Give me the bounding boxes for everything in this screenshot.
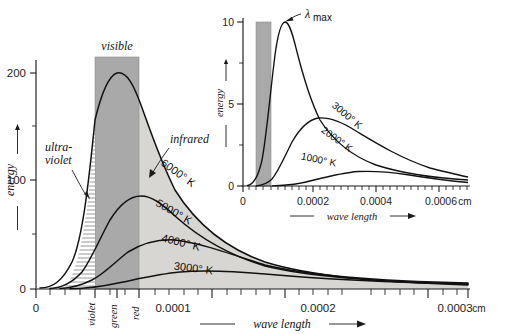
- main-y-tick-200: 200: [7, 67, 26, 79]
- main-x-tick-0: 0: [33, 302, 39, 314]
- spectrum-tick-red: red: [130, 306, 141, 320]
- visible-band: [95, 57, 139, 289]
- inset-y-tick-0: 0: [228, 180, 234, 192]
- inset-y-tick-5: 5: [228, 98, 234, 110]
- inset-x-unit: cm: [458, 196, 471, 207]
- inset-chart: 0 5 10 energy: [214, 7, 490, 222]
- blackbody-radiation-figure: 0 100 200 energy: [0, 0, 505, 334]
- inset-y-axis-label: energy: [214, 89, 225, 118]
- inset-x-tick-2: 0.0004: [360, 195, 392, 207]
- main-x-tick-1: 0.0001: [155, 302, 190, 314]
- main-y-tick-0: 0: [20, 283, 26, 295]
- inset-x-axis-label: wave length: [327, 211, 377, 222]
- infrared-label: infrared: [170, 132, 210, 146]
- ultraviolet-label-line2: violet: [45, 153, 72, 167]
- main-y-axis-label: energy: [3, 163, 17, 196]
- main-x-unit: cm: [472, 303, 485, 314]
- inset-background: [238, 8, 490, 190]
- main-x-axis-label: wave length: [253, 317, 311, 331]
- visible-label: visible: [101, 39, 133, 53]
- ultraviolet-label-line1: ultra-: [45, 140, 72, 154]
- inset-x-tick-3: 0.0006: [425, 195, 457, 207]
- inset-x-tick-0: 0: [240, 195, 246, 207]
- main-x-tick-2: 0.0002: [300, 302, 335, 314]
- lambda-max-subscript: max: [313, 12, 332, 23]
- inset-x-tick-1: 0.0002: [297, 195, 329, 207]
- spectrum-tick-violet: violet: [86, 302, 97, 326]
- lambda-max-symbol: λ: [304, 7, 310, 21]
- inset-y-tick-10: 10: [222, 16, 234, 28]
- spectrum-tick-green: green: [108, 304, 119, 328]
- main-x-tick-3: 0.0003: [437, 302, 472, 314]
